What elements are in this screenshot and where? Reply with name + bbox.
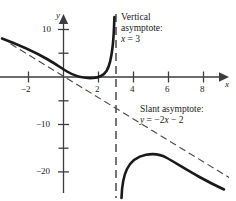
x-tick-label-2: 2 <box>95 84 100 94</box>
y-tick-label--20: −20 <box>36 166 50 176</box>
slant-annot-variable-x: x <box>164 115 168 125</box>
x-tick-label-8: 8 <box>200 84 205 94</box>
x-tick-label-6: 6 <box>165 84 170 94</box>
curve-right-branch <box>122 154 225 198</box>
x-tick-label--2: −2 <box>21 84 31 94</box>
slant-annot-eq-part2: − 2 <box>171 115 183 125</box>
y-tick-label--10: −10 <box>36 119 50 129</box>
y-axis-label: y <box>56 10 60 20</box>
slant-annot-variable-y: y <box>140 115 144 125</box>
y-tick-label-10: 10 <box>42 24 51 34</box>
vertical-annot-variable: x <box>121 34 125 44</box>
x-tick-label-4: 4 <box>130 84 135 94</box>
x-axis <box>0 72 229 82</box>
vertical-annot-value: = 3 <box>128 34 140 44</box>
graph-figure: x y −2 2 4 6 8 10 −10 −20 Vertical asymp… <box>0 0 236 201</box>
slant-annot-eq-part1: = −2 <box>147 115 165 125</box>
y-axis <box>59 14 68 193</box>
vertical-annot-line-1: Vertical <box>121 12 163 23</box>
slant-annot-line-2: y = −2x − 2 <box>140 115 204 126</box>
curve-left-branch <box>2 17 114 78</box>
slant-asymptote-annotation: Slant asymptote: y = −2x − 2 <box>140 104 204 126</box>
vertical-asymptote-annotation: Vertical asymptote: x = 3 <box>121 12 163 45</box>
x-axis-label: x <box>225 79 229 89</box>
vertical-annot-line-2: asymptote: <box>121 23 163 34</box>
vertical-annot-line-3: x = 3 <box>121 34 163 45</box>
slant-annot-line-1: Slant asymptote: <box>140 104 204 115</box>
